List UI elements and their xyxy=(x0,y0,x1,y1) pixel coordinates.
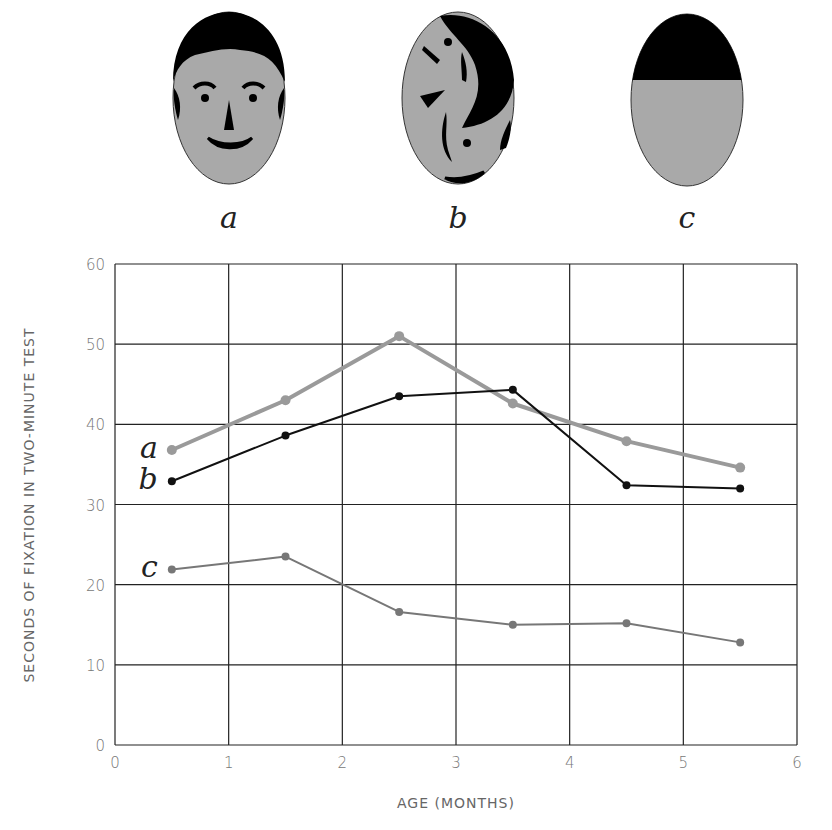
series-label-c: c xyxy=(141,549,158,584)
face-c xyxy=(630,10,744,186)
x-tick-label: 5 xyxy=(679,754,689,772)
y-axis-ticks: 0102030405060 xyxy=(86,256,105,755)
data-point xyxy=(395,392,403,400)
data-point xyxy=(508,398,518,408)
y-tick-label: 30 xyxy=(86,497,105,515)
y-tick-label: 60 xyxy=(86,256,105,274)
face-label-b: b xyxy=(448,200,467,235)
data-point xyxy=(509,621,517,629)
x-tick-label: 4 xyxy=(565,754,575,772)
data-point xyxy=(736,638,744,646)
data-point xyxy=(168,477,176,485)
series-c: c xyxy=(141,549,744,646)
face-label-c: c xyxy=(679,200,696,235)
y-tick-label: 40 xyxy=(86,416,105,434)
fixation-chart: a b c 0102030405060 0123456 abc AGE (MON… xyxy=(0,0,832,830)
x-tick-label: 3 xyxy=(451,754,461,772)
data-point xyxy=(168,565,176,573)
x-tick-label: 2 xyxy=(338,754,348,772)
data-point xyxy=(282,432,290,440)
x-tick-label: 1 xyxy=(224,754,234,772)
x-axis-title: AGE (MONTHS) xyxy=(397,795,515,811)
series-b: b xyxy=(139,386,745,496)
series-label-b: b xyxy=(139,461,158,496)
series-label-a: a xyxy=(140,430,158,465)
y-tick-label: 50 xyxy=(86,336,105,354)
data-point xyxy=(395,608,403,616)
face-b xyxy=(402,12,514,184)
series-a: a xyxy=(140,331,745,472)
data-point xyxy=(167,445,177,455)
data-point xyxy=(735,463,745,473)
x-tick-label: 0 xyxy=(110,754,120,772)
data-point xyxy=(623,619,631,627)
data-point xyxy=(509,386,517,394)
data-point xyxy=(623,481,631,489)
y-axis-title: SECONDS OF FIXATION IN TWO-MINUTE TEST xyxy=(21,327,37,682)
y-tick-label: 10 xyxy=(86,657,105,675)
y-tick-label: 20 xyxy=(86,577,105,595)
x-axis-ticks: 0123456 xyxy=(110,754,802,772)
data-point xyxy=(622,436,632,446)
y-tick-label: 0 xyxy=(95,737,105,755)
x-tick-label: 6 xyxy=(792,754,802,772)
face-a xyxy=(173,12,285,184)
grid xyxy=(115,264,797,745)
data-point xyxy=(282,553,290,561)
data-lines: abc xyxy=(139,331,746,646)
data-point xyxy=(281,395,291,405)
data-point xyxy=(394,331,404,341)
data-point xyxy=(736,484,744,492)
face-label-a: a xyxy=(220,200,238,235)
